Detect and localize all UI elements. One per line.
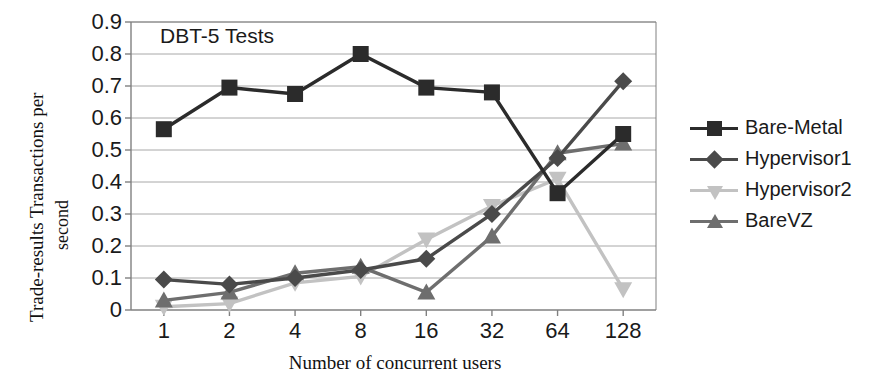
legend-key: [690, 119, 738, 137]
legend-label: Hypervisor2: [745, 178, 852, 201]
legend-marker-shape: [705, 150, 723, 168]
x-tick-label: 16: [414, 320, 438, 342]
x-tick-label: 2: [223, 320, 235, 342]
x-tick-label: 1: [158, 320, 170, 342]
chart-figure: Trade-results Transactions per second 0.…: [0, 0, 872, 386]
legend-marker-shape: [707, 214, 723, 228]
x-tick-label: 128: [605, 320, 642, 342]
x-tick-label: 8: [355, 320, 367, 342]
x-tick-label: 64: [545, 320, 569, 342]
x-tick-label: 4: [289, 320, 301, 342]
legend-key: [690, 212, 738, 230]
legend-triangle-down-icon: [707, 183, 723, 200]
legend-key: [690, 181, 738, 199]
legend-marker-shape: [707, 121, 722, 136]
legend-item-bare-metal[interactable]: Bare-Metal: [690, 112, 852, 143]
legend-marker-shape: [707, 186, 723, 200]
legend-label: BareVZ: [745, 209, 813, 232]
legend-diamond-icon: [707, 152, 721, 166]
legend-square-icon: [707, 121, 722, 136]
legend-triangle-up-icon: [707, 214, 723, 228]
legend-item-barevz[interactable]: BareVZ: [690, 205, 852, 236]
legend-item-hypervisor1[interactable]: Hypervisor1: [690, 143, 852, 174]
x-axis-label: Number of concurrent users: [130, 352, 660, 374]
legend-item-hypervisor2[interactable]: Hypervisor2: [690, 174, 852, 205]
legend-key: [690, 150, 738, 168]
legend-label: Bare-Metal: [745, 116, 843, 139]
legend-label: Hypervisor1: [745, 147, 852, 170]
x-tick-label: 32: [480, 320, 504, 342]
chart-legend: Bare-MetalHypervisor1Hypervisor2BareVZ: [690, 112, 852, 236]
